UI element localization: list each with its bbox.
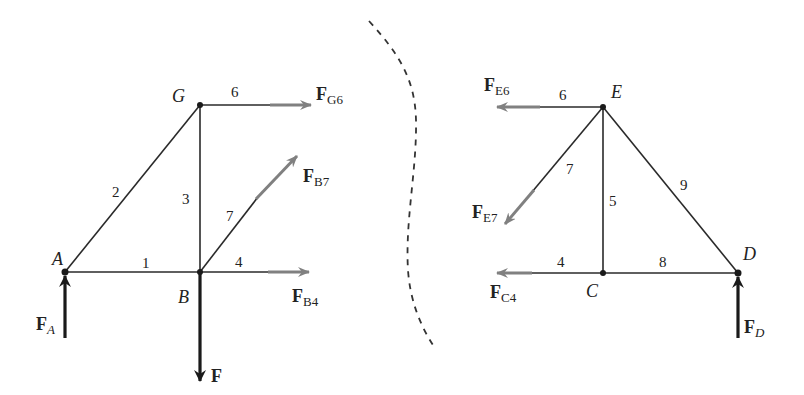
- member-label-6: 6: [231, 84, 239, 100]
- force-label-fb4: FB4: [292, 286, 319, 309]
- joint-g: [197, 102, 203, 108]
- node-label-g: G: [172, 86, 185, 106]
- node-label-e: E: [610, 82, 622, 102]
- joint-c: [600, 270, 606, 276]
- member-label-4: 4: [235, 254, 243, 270]
- node-label-a: A: [51, 249, 64, 269]
- member-label-5: 5: [609, 193, 617, 209]
- right-section: E C D 6 7 5 9 4 8 FE6 FE7 FC4 FD: [472, 75, 765, 340]
- member-9: [603, 107, 738, 273]
- force-label-fg6: FG6: [316, 84, 343, 107]
- force-label-fd: FD: [744, 317, 765, 340]
- force-label-fe7: FE7: [472, 202, 498, 225]
- left-section: A G B 1 2 3 7 6 4 FG6 FB7 FB4 F FA: [36, 84, 343, 386]
- member-7-stub: [532, 107, 603, 192]
- node-label-c: C: [586, 281, 599, 301]
- truss-section-diagram: A G B 1 2 3 7 6 4 FG6 FB7 FB4 F FA: [0, 0, 804, 395]
- member-label-7: 7: [566, 161, 574, 177]
- member-2: [65, 105, 200, 272]
- member-label-4: 4: [557, 254, 565, 270]
- force-arrow-e7: [505, 190, 534, 224]
- force-arrow-b7: [256, 156, 297, 199]
- member-label-7: 7: [226, 208, 234, 224]
- member-label-6: 6: [559, 87, 567, 103]
- member-label-9: 9: [680, 177, 688, 193]
- force-label-fa: FA: [36, 314, 55, 337]
- member-label-1: 1: [142, 255, 150, 271]
- force-label-fc4: FC4: [490, 282, 517, 305]
- joint-e: [600, 104, 606, 110]
- member-label-3: 3: [182, 191, 190, 207]
- force-label-fb7: FB7: [303, 166, 330, 189]
- joint-a: [62, 269, 69, 276]
- force-label-fe6: FE6: [484, 75, 510, 98]
- node-label-d: D: [742, 244, 756, 264]
- node-label-b: B: [178, 287, 189, 307]
- member-label-2: 2: [112, 184, 120, 200]
- force-label-f: F: [211, 366, 222, 386]
- section-cut-line: [369, 21, 433, 345]
- member-label-8: 8: [659, 254, 667, 270]
- joint-d: [735, 270, 742, 277]
- joint-b: [197, 269, 203, 275]
